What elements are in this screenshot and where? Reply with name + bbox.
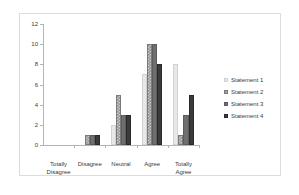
y-tick-label: 0 (35, 142, 38, 148)
legend-swatch-icon (224, 90, 228, 94)
legend-swatch-icon (224, 102, 228, 106)
bar-group (43, 24, 74, 145)
bar-group (137, 24, 168, 145)
plot-area: 024681012 Totally DisagreeDisagreeNeutra… (43, 24, 199, 146)
y-tick-label: 8 (35, 61, 38, 67)
bar[interactable] (157, 64, 162, 145)
chart-legend: Statement 1Statement 2Statement 3Stateme… (224, 74, 280, 122)
bar[interactable] (189, 95, 194, 145)
x-axis-label: Disagree (74, 160, 105, 168)
legend-item[interactable]: Statement 3 (224, 98, 280, 109)
x-axis-line (43, 145, 200, 146)
legend-label: Statement 1 (231, 77, 263, 83)
x-tick-mark (168, 145, 169, 148)
y-tick-label: 2 (35, 122, 38, 128)
legend-item[interactable]: Statement 2 (224, 86, 280, 97)
legend-swatch-icon (224, 78, 228, 82)
bar-group (74, 24, 105, 145)
x-axis-label: Totally Agree (168, 160, 199, 176)
x-axis-label: Totally Disagree (43, 160, 74, 176)
legend-label: Statement 3 (231, 101, 263, 107)
legend-label: Statement 2 (231, 89, 263, 95)
bar-group (168, 24, 199, 145)
bar[interactable] (173, 64, 178, 145)
x-tick-mark (74, 145, 75, 148)
x-tick-mark (105, 145, 106, 148)
legend-label: Statement 4 (231, 113, 263, 119)
y-tick-label: 4 (35, 102, 38, 108)
x-tick-mark (137, 145, 138, 148)
bar[interactable] (126, 115, 131, 145)
x-axis-label: Neutral (105, 160, 136, 168)
x-tick-mark (199, 145, 200, 148)
y-tick-label: 12 (31, 21, 38, 27)
y-tick-label: 6 (35, 82, 38, 88)
bar[interactable] (95, 135, 100, 145)
x-axis-label: Agree (137, 160, 168, 168)
chart-container: 024681012 Totally DisagreeDisagreeNeutra… (19, 13, 281, 176)
legend-swatch-icon (224, 114, 228, 118)
y-tick-mark (40, 145, 43, 146)
bar-group (105, 24, 136, 145)
y-tick-label: 10 (31, 41, 38, 47)
legend-item[interactable]: Statement 1 (224, 74, 280, 85)
legend-item[interactable]: Statement 4 (224, 110, 280, 121)
